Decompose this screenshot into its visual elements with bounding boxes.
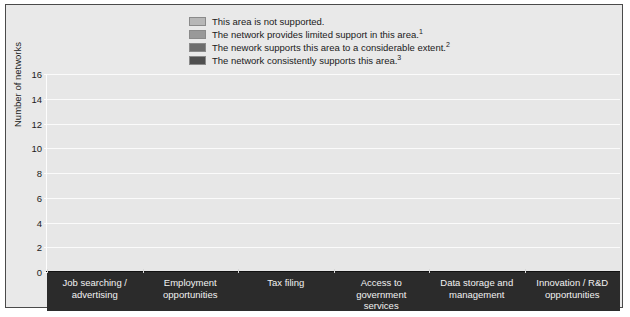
x-axis-tick-label: Data storage and management xyxy=(440,277,513,300)
x-axis-tick: Job searching / advertising xyxy=(47,272,143,311)
y-tick-label: 16 xyxy=(31,69,42,80)
y-axis-spine xyxy=(46,74,47,272)
x-axis-tick-label: Employment opportunities xyxy=(163,277,217,300)
x-axis-tick: Access to government services xyxy=(334,272,430,311)
chart-screenshot: This area is not supported.The network p… xyxy=(0,0,630,317)
y-tick-label: 6 xyxy=(37,192,42,203)
bar-group xyxy=(47,74,143,272)
x-axis-tick-label: Access to government services xyxy=(356,277,406,312)
x-axis-tick: Data storage and management xyxy=(429,272,525,311)
y-tick-label: 8 xyxy=(37,168,42,179)
y-tick-label: 4 xyxy=(37,217,42,228)
legend-item-label: The nework supports this area to a consi… xyxy=(212,42,450,53)
legend-item-label: This area is not supported. xyxy=(212,16,324,27)
legend-swatch-icon xyxy=(189,30,206,39)
y-tick-label: 2 xyxy=(37,242,42,253)
legend-item-label: The network consistently supports this a… xyxy=(212,55,401,66)
x-axis-tick: Innovation / R&D opportunities xyxy=(525,272,621,311)
legend-swatch-icon xyxy=(189,43,206,52)
chart-legend: This area is not supported.The network p… xyxy=(189,15,539,67)
legend-footnote-marker: 3 xyxy=(397,54,401,61)
chart-frame: This area is not supported.The network p… xyxy=(5,4,623,308)
legend-footnote-marker: 1 xyxy=(419,28,423,35)
bar-group xyxy=(429,74,525,272)
bar-groups xyxy=(47,74,620,272)
bar-group xyxy=(525,74,621,272)
legend-swatch-icon xyxy=(189,17,206,26)
x-axis-tick: Employment opportunities xyxy=(143,272,239,311)
y-tick-label: 0 xyxy=(37,267,42,278)
y-tick-label: 10 xyxy=(31,143,42,154)
y-axis-title: Number of networks xyxy=(12,42,23,127)
bar-group xyxy=(143,74,239,272)
legend-swatch-icon xyxy=(189,56,206,65)
y-tick-label: 14 xyxy=(31,93,42,104)
x-tick-mark xyxy=(143,269,144,273)
legend-footnote-marker: 2 xyxy=(446,41,450,48)
x-axis-tick-label: Job searching / advertising xyxy=(63,277,127,300)
x-tick-mark xyxy=(429,269,430,273)
plot-area-wrapper: 1614121086420 xyxy=(46,74,620,272)
legend-item[interactable]: The network consistently supports this a… xyxy=(189,54,539,67)
x-axis-tick-label: Innovation / R&D opportunities xyxy=(536,277,608,300)
x-axis-tick-label: Tax filing xyxy=(267,277,304,289)
x-tick-mark xyxy=(238,269,239,273)
legend-item[interactable]: The network provides limited support in … xyxy=(189,28,539,41)
legend-item[interactable]: The nework supports this area to a consi… xyxy=(189,41,539,54)
legend-item[interactable]: This area is not supported. xyxy=(189,15,539,28)
x-axis-tick: Tax filing xyxy=(238,272,334,311)
y-tick-label: 12 xyxy=(31,118,42,129)
bar-group xyxy=(238,74,334,272)
x-axis-label-band: Job searching / advertisingEmployment op… xyxy=(47,272,620,311)
x-tick-mark xyxy=(47,269,48,273)
x-tick-mark xyxy=(525,269,526,273)
bar-group xyxy=(334,74,430,272)
legend-item-label: The network provides limited support in … xyxy=(212,29,423,40)
x-tick-mark xyxy=(334,269,335,273)
